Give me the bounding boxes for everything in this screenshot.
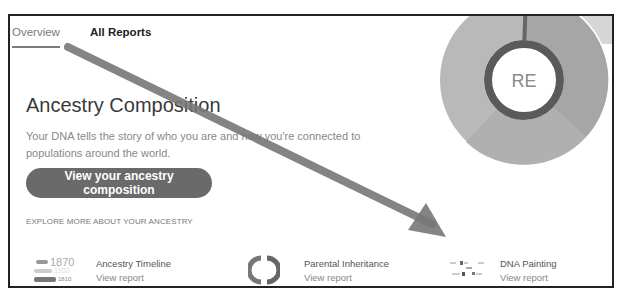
view-ancestry-composition-button[interactable]: View your ancestry composition <box>26 168 212 198</box>
timeline-icon: 1870 1930 1810 <box>34 254 84 284</box>
ancestry-panel: Overview All Reports Ancestry Compositio… <box>8 14 614 288</box>
donut-center-label: RE <box>511 71 536 91</box>
chromosome-dots-icon <box>450 259 492 283</box>
explore-section-label: EXPLORE MORE ABOUT YOUR ANCESTRY <box>26 217 193 226</box>
view-report-link[interactable]: View report <box>96 272 144 283</box>
ancestry-donut-chart[interactable]: RE <box>436 14 612 168</box>
hero-description: Your DNA tells the story of who you are … <box>26 128 386 162</box>
card-title: Ancestry Timeline <box>96 258 171 269</box>
ring-split-icon <box>248 255 280 285</box>
view-report-link[interactable]: View report <box>500 272 548 283</box>
tab-all-reports[interactable]: All Reports <box>90 26 151 38</box>
card-title: Parental Inheritance <box>304 258 389 269</box>
card-title: DNA Painting <box>500 258 557 269</box>
tab-overview[interactable]: Overview <box>12 26 60 38</box>
view-report-link[interactable]: View report <box>304 272 352 283</box>
page-title: Ancestry Composition <box>26 94 221 117</box>
